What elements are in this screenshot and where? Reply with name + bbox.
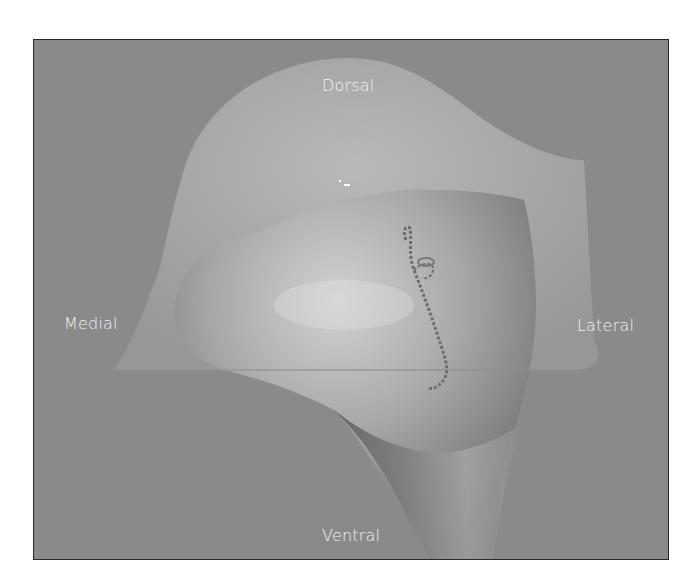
label-dorsal: Dorsal: [322, 76, 374, 95]
render-viewport: Dorsal Medial Lateral Ventral: [33, 39, 669, 560]
label-ventral: Ventral: [322, 526, 380, 545]
label-lateral: Lateral: [577, 316, 634, 335]
label-medial: Medial: [64, 314, 118, 333]
anatomy-render: [34, 40, 669, 560]
